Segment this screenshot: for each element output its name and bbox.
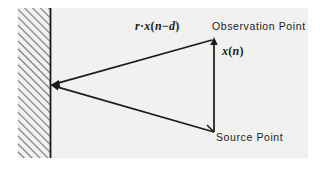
reflected-signal-label: r·x(n−d) [135, 20, 180, 32]
wall-hatching [18, 8, 50, 158]
reflected-signal-n: n [155, 19, 162, 33]
reflected-signal-minus: − [162, 19, 169, 33]
direct-signal-n: n [233, 44, 240, 58]
reflection-diagram-figure: r·x(n−d) Observation Point x(n) Source P… [0, 0, 320, 170]
observation-point-label: Observation Point [212, 21, 306, 32]
ray-source-to-wall [56, 87, 214, 132]
reflected-signal-close-paren: ) [175, 19, 179, 33]
ray-wall-to-observation [56, 40, 212, 84]
direct-signal-label: x(n) [222, 45, 244, 57]
direct-signal-close-paren: ) [240, 44, 244, 58]
source-point-label: Source Point [216, 132, 283, 143]
